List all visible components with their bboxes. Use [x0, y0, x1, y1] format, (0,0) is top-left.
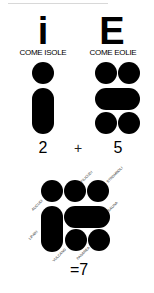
e-bottom-right-icon — [118, 112, 140, 134]
count-right: 5 — [108, 140, 128, 156]
plus-operator: + — [68, 141, 88, 155]
e-top-right-icon — [118, 62, 140, 84]
count-left: 2 — [33, 140, 53, 156]
result-total: =7 — [66, 262, 92, 278]
label-stromboli: STROMBOLI — [106, 166, 124, 184]
label-filicudi: FILICUDI — [80, 170, 93, 183]
e-bottom-left-icon — [95, 112, 117, 134]
e-middle-bar-icon — [95, 88, 140, 110]
island-stromboli-icon — [87, 180, 109, 202]
island-lipari-icon — [41, 206, 63, 252]
island-alicudi-icon — [41, 180, 63, 202]
island-vulcano-icon — [65, 229, 87, 251]
i-stem-icon — [32, 88, 54, 134]
island-salina-icon — [64, 206, 110, 228]
label-salina: SALINA — [107, 200, 119, 212]
label-lipari: LIPARI — [28, 230, 39, 241]
e-shape — [95, 62, 140, 134]
combined-shape — [41, 180, 110, 252]
i-dot-icon — [32, 62, 54, 84]
island-panarea-icon — [88, 229, 110, 251]
e-top-left-icon — [95, 62, 117, 84]
i-shape — [32, 62, 54, 134]
label-alicudi: ALICUDI — [31, 199, 44, 212]
